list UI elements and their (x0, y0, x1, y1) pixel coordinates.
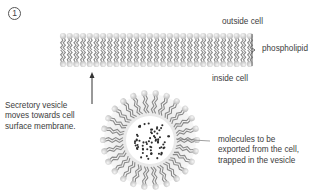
phospholipid-molecule (160, 33, 166, 50)
phospholipid-molecule (133, 33, 139, 50)
phospholipid-molecule (113, 33, 119, 50)
vesicle-caption-line: Secretory vesicle (5, 101, 76, 111)
phospholipid-molecule (227, 33, 233, 50)
vesicle-caption: Secretory vesicle moves towards cell sur… (5, 101, 76, 132)
phospholipid-molecule (193, 50, 199, 67)
label-outside-cell: outside cell (222, 17, 263, 27)
phospholipid-molecule (100, 33, 106, 50)
phospholipid-molecule (67, 33, 73, 50)
phospholipid-molecule (93, 50, 99, 67)
phospholipid-bilayer (60, 33, 253, 67)
phospholipid-molecule (187, 50, 193, 67)
phospholipid-molecule (180, 33, 186, 50)
diagram-canvas (0, 0, 318, 196)
phospholipid-molecule (133, 50, 139, 67)
phospholipid-molecule (207, 50, 213, 67)
molecules-caption-line: exported from the cell, (218, 145, 299, 155)
label-inside-cell: inside cell (212, 74, 248, 84)
phospholipid-molecule (140, 33, 146, 50)
phospholipid-molecule (240, 33, 246, 50)
phospholipid-molecule (200, 50, 206, 67)
phospholipid-molecule (127, 33, 133, 50)
phospholipid-molecule (73, 33, 79, 50)
phospholipid-molecule (200, 33, 206, 50)
phospholipid-molecule (234, 33, 240, 50)
phospholipid-molecule (93, 33, 99, 50)
phospholipid-molecule (73, 50, 79, 67)
phospholipid-molecule (240, 50, 246, 67)
phospholipid-molecule (100, 50, 106, 67)
phospholipid-molecule (120, 50, 126, 67)
phospholipid-molecule (60, 50, 66, 67)
phospholipid-molecule (180, 50, 186, 67)
molecules-caption: molecules to be exported from the cell, … (218, 135, 299, 166)
upward-arrow-icon (90, 72, 95, 104)
phospholipid-molecule (234, 50, 240, 67)
phospholipid-molecule (140, 50, 146, 67)
phospholipid-molecule (107, 50, 113, 67)
phospholipid-molecule (67, 50, 73, 67)
molecules-caption-line: trapped in the vesicle (218, 156, 299, 166)
phospholipid-molecule (187, 33, 193, 50)
phospholipid-molecule (147, 50, 153, 67)
secretory-vesicle (100, 90, 200, 190)
phospholipid-molecule (80, 33, 86, 50)
phospholipid-molecule (173, 50, 179, 67)
phospholipid-molecule (153, 33, 159, 50)
phospholipid-molecule (214, 50, 220, 67)
vesicle-caption-line: surface membrane. (5, 122, 76, 132)
phospholipid-molecule (207, 33, 213, 50)
phospholipid-molecule (120, 33, 126, 50)
phospholipid-molecule (220, 33, 226, 50)
phospholipid-molecule (227, 50, 233, 67)
phospholipid-molecule (220, 50, 226, 67)
phospholipid-molecule (167, 50, 173, 67)
phospholipid-molecule (160, 50, 166, 67)
phospholipid-molecule (87, 33, 93, 50)
phospholipid-molecule (173, 33, 179, 50)
phospholipid-molecule (193, 33, 199, 50)
phospholipid-molecule (107, 33, 113, 50)
phospholipid-molecule (113, 50, 119, 67)
phospholipid-molecule (147, 33, 153, 50)
phospholipid-molecule (167, 33, 173, 50)
phospholipid-molecule (153, 50, 159, 67)
phospholipid-bracket (252, 34, 255, 66)
phospholipid-molecule (60, 33, 66, 50)
phospholipid-molecule (127, 50, 133, 67)
molecules-caption-line: molecules to be (218, 135, 299, 145)
phospholipid-molecule (80, 50, 86, 67)
phospholipid-molecule (214, 33, 220, 50)
vesicle-caption-line: moves towards cell (5, 111, 76, 121)
phospholipid-molecule (87, 50, 93, 67)
label-phospholipid: phospholipid (262, 44, 308, 54)
